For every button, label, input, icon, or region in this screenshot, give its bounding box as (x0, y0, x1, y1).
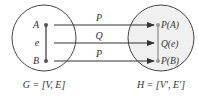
vertex-pb-dot (156, 59, 160, 63)
graph-h-caption: H = [V', E'] (136, 79, 185, 90)
mapping-label-q: Q (95, 30, 103, 41)
graph-g-caption: G = [V, E] (23, 79, 66, 90)
edge-qe-label: Q(e) (161, 39, 178, 50)
vertex-pa-label: P(A) (160, 20, 179, 31)
vertex-b-label: B (33, 55, 39, 66)
vertex-b-dot (44, 59, 48, 63)
vertex-pb-label: P(B) (160, 56, 179, 67)
graph-homomorphism-diagram: A e B P Q P P(A) Q(e) P(B) G = [V, E] H … (0, 0, 198, 96)
vertex-a-dot (44, 23, 48, 27)
edge-e-label: e (35, 37, 40, 48)
vertex-pa-dot (156, 23, 160, 27)
vertex-a-label: A (32, 19, 40, 30)
mapping-label-p-top: P (95, 12, 102, 23)
mapping-label-p-bottom: P (95, 48, 102, 59)
